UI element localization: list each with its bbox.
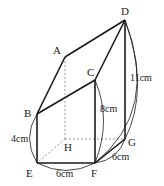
label-A: A xyxy=(53,44,61,56)
label-H: H xyxy=(64,141,72,153)
label-B: B xyxy=(24,107,31,119)
edge-HE xyxy=(37,139,65,163)
label-D: D xyxy=(121,5,129,17)
measure-DG: 11cm xyxy=(130,72,152,83)
label-C: C xyxy=(87,66,94,78)
arc-CF xyxy=(95,80,104,163)
label-E: E xyxy=(26,167,33,179)
label-F: F xyxy=(91,167,97,179)
measure-BE: 4cm xyxy=(11,133,28,144)
measure-CF: 8cm xyxy=(100,103,117,114)
figure-svg: D A C B H G E F 4cm 6cm 6cm 8cm 11cm xyxy=(0,0,164,186)
label-G: G xyxy=(128,136,136,148)
arc-BE xyxy=(30,114,38,163)
measure-FG: 6cm xyxy=(112,151,129,162)
visible-edges xyxy=(37,20,125,163)
geometry-figure: D A C B H G E F 4cm 6cm 6cm 8cm 11cm xyxy=(0,0,164,186)
measure-EF: 6cm xyxy=(56,168,73,179)
